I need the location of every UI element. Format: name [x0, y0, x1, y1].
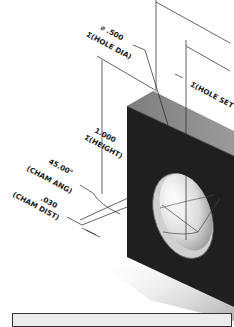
bottom-panel [12, 313, 232, 327]
hole-set-label: Σ(HOLE SET [189, 80, 234, 110]
cham-ang-value: 45.00° [47, 157, 74, 177]
